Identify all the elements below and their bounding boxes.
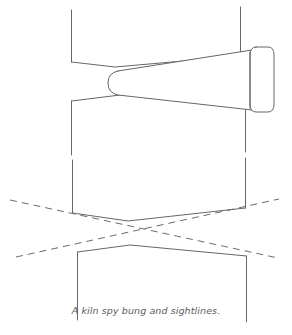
kiln-spy-bung-illustration <box>0 0 292 335</box>
figure-root: A kiln spy bung and sightlines. <box>0 0 292 335</box>
bung-flange-cap <box>250 47 274 112</box>
